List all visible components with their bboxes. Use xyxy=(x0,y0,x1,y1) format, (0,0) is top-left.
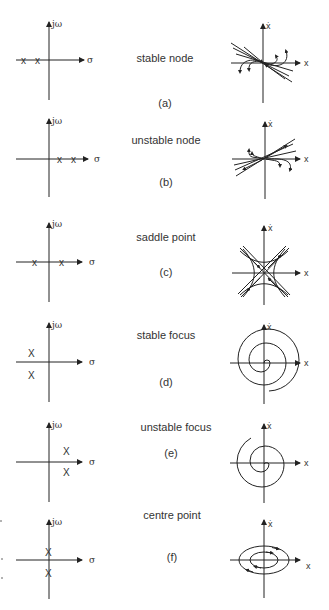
pole-plot-c xyxy=(16,223,82,302)
xdot-axis-label: ẋ xyxy=(268,119,273,129)
sigma-axis-label: σ xyxy=(89,555,95,565)
phase-portrait-c xyxy=(232,226,300,305)
panel-e-title: unstable focus xyxy=(141,421,212,433)
panel-f-tag: (f) xyxy=(167,551,177,563)
xdot-axis-label: ẋ xyxy=(267,421,272,431)
pole-plot-f xyxy=(16,520,82,599)
panel-b-tag: (b) xyxy=(159,176,172,188)
pole-marker: x xyxy=(57,154,62,165)
x-axis-label: x xyxy=(304,358,309,368)
pole-marker: x xyxy=(71,154,76,165)
pole-marker: x xyxy=(21,55,26,66)
sigma-axis-label: σ xyxy=(94,154,100,164)
x-axis-label: x xyxy=(304,268,309,278)
sigma-axis-label: σ xyxy=(87,55,93,65)
x-axis-label: x xyxy=(304,58,309,68)
jw-axis-label: jω xyxy=(51,116,62,126)
jw-axis-label: jω xyxy=(51,517,62,527)
xdot-axis-label: ẋ xyxy=(267,322,272,332)
pole-marker: X xyxy=(45,568,52,579)
pole-marker: x xyxy=(59,257,64,268)
panel-c-tag: (c) xyxy=(160,266,173,278)
x-axis-label: x xyxy=(304,154,309,164)
phase-portrait-b xyxy=(232,122,300,199)
phase-portrait-a xyxy=(231,24,300,103)
pole-marker: X xyxy=(28,370,35,381)
pole-plot-a xyxy=(16,22,84,100)
panel-a-tag: (a) xyxy=(158,97,171,109)
pole-marker: x xyxy=(35,55,40,66)
xdot-axis-label: ẋ xyxy=(268,223,273,233)
phase-portrait-d xyxy=(230,325,300,404)
panel-d-title: stable focus xyxy=(137,329,196,341)
jw-axis-label: jω xyxy=(51,420,62,430)
sigma-axis-label: σ xyxy=(89,257,95,267)
phase-portrait-f xyxy=(230,520,300,598)
jw-axis-label: jω xyxy=(51,19,62,29)
pole-plot-d xyxy=(16,323,82,402)
panel-d-tag: (d) xyxy=(159,376,172,388)
panel-b-title: unstable node xyxy=(131,134,200,146)
panel-e-tag: (e) xyxy=(164,447,177,459)
phase-portrait-e xyxy=(230,424,300,503)
pole-marker: X xyxy=(28,348,35,359)
panel-c-title: saddle point xyxy=(136,231,195,243)
edge-artifacts xyxy=(0,521,3,578)
panel-a-title: stable node xyxy=(137,52,194,64)
x-axis-label: x xyxy=(306,561,311,571)
pole-plot-b xyxy=(16,119,88,197)
sigma-axis-label: σ xyxy=(89,457,95,467)
pole-marker: x xyxy=(32,257,37,268)
pole-marker: X xyxy=(63,467,70,478)
xdot-axis-label: ẋ xyxy=(268,519,273,529)
x-axis-label: x xyxy=(304,458,309,468)
sigma-axis-label: σ xyxy=(89,357,95,367)
xdot-axis-label: ẋ xyxy=(266,21,271,31)
jw-axis-label: jω xyxy=(51,320,62,330)
pole-marker: X xyxy=(45,547,52,558)
jw-axis-label: jω xyxy=(51,219,62,229)
panel-f-title: centre point xyxy=(143,509,200,521)
pole-plot-e xyxy=(16,423,82,502)
pole-marker: X xyxy=(63,446,70,457)
